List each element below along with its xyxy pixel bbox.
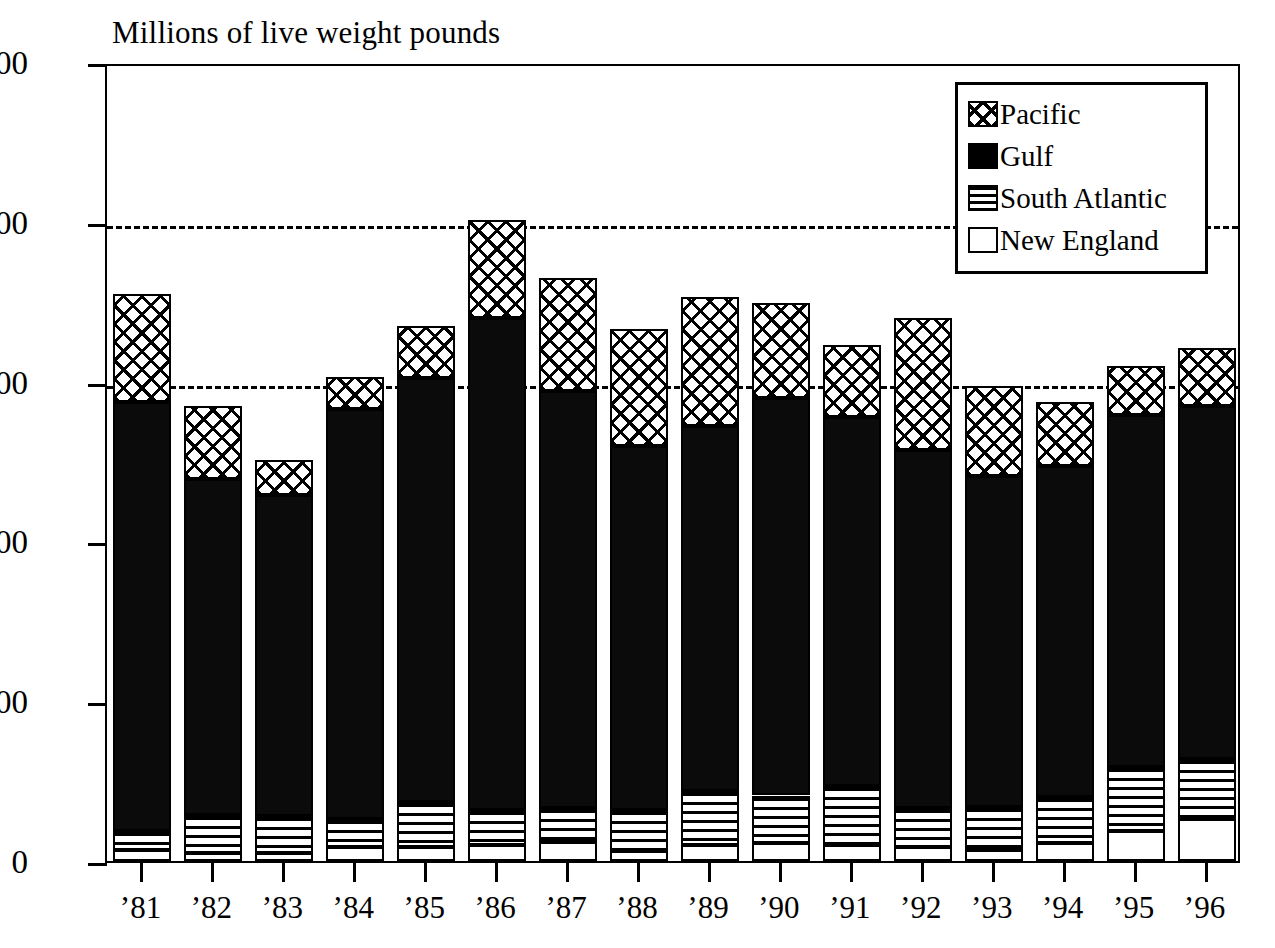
x-axis-tick-mark (211, 863, 214, 882)
bar-segment-pacific (539, 278, 597, 391)
bar-segment-gulf (894, 450, 952, 808)
x-axis-tick-label: ’84 (333, 892, 374, 923)
bar-82[interactable] (184, 406, 242, 861)
bar-89[interactable] (681, 297, 739, 861)
bar-segment-gulf (468, 318, 526, 810)
bar-segment-gulf (184, 479, 242, 815)
bar-segment-gulf (255, 495, 313, 816)
bar-segment-pacific (397, 326, 455, 379)
y-axis-tick-label: 0 (12, 846, 29, 879)
bar-segment-new-england (752, 843, 810, 861)
bar-87[interactable] (539, 278, 597, 861)
bar-segment-pacific (894, 318, 952, 451)
x-axis-tick-mark (850, 863, 853, 882)
bar-segment-pacific (1178, 348, 1236, 406)
bar-segment-pacific (1107, 366, 1165, 416)
bar-segment-south-atlantic (681, 791, 739, 845)
x-axis-tick-label: ’85 (404, 892, 445, 923)
legend-item-pacific[interactable]: Pacific (968, 93, 1195, 135)
bar-segment-new-england (1178, 819, 1236, 861)
y-axis-tick-label: 400 (0, 207, 28, 240)
bar-95[interactable] (1107, 366, 1165, 861)
x-axis-tick-label: ’93 (971, 892, 1012, 923)
bar-segment-gulf (1107, 415, 1165, 767)
bar-segment-south-atlantic (752, 796, 810, 844)
y-axis-tick-mark (88, 863, 107, 866)
bar-segment-gulf (326, 409, 384, 820)
x-axis-tick-label: ’92 (900, 892, 941, 923)
bar-segment-pacific (823, 345, 881, 417)
bar-segment-gulf (397, 378, 455, 801)
y-axis-tick-label: 100 (0, 686, 28, 719)
bar-segment-pacific (965, 386, 1023, 475)
bar-84[interactable] (326, 377, 384, 861)
bar-segment-gulf (823, 417, 881, 786)
x-axis-tick-mark (1134, 863, 1137, 882)
chart-title: Millions of live weight pounds (112, 14, 500, 52)
bar-segment-south-atlantic (326, 819, 384, 846)
x-axis-tick-label: ’96 (1184, 892, 1225, 923)
bar-85[interactable] (397, 326, 455, 861)
bar-segment-south-atlantic (255, 816, 313, 853)
x-axis-tick-label: ’81 (120, 892, 161, 923)
x-axis-tick-label: ’94 (1042, 892, 1083, 923)
x-axis-tick-mark (1063, 863, 1066, 882)
bar-segment-new-england (610, 851, 668, 861)
bar-segment-new-england (823, 845, 881, 861)
bar-segment-pacific (326, 377, 384, 409)
bar-86[interactable] (468, 220, 526, 861)
bar-segment-gulf (752, 398, 810, 796)
x-axis-tick-label: ’95 (1113, 892, 1154, 923)
bar-94[interactable] (1036, 402, 1094, 861)
bar-segment-new-england (397, 847, 455, 861)
x-axis-tick-mark (1205, 863, 1208, 882)
x-axis-tick-mark (566, 863, 569, 882)
x-axis-tick-label: ’91 (829, 892, 870, 923)
x-axis-tick-mark (495, 863, 498, 882)
bar-90[interactable] (752, 303, 810, 861)
legend-item-label: South Atlantic (1000, 184, 1167, 213)
white-swatch (968, 227, 998, 253)
x-axis-tick-label: ’90 (758, 892, 799, 923)
solid-black-swatch (968, 143, 998, 169)
bar-88[interactable] (610, 329, 668, 861)
x-axis-tick-label: ’87 (545, 892, 586, 923)
bar-segment-new-england (113, 850, 171, 861)
bar-segment-new-england (1107, 831, 1165, 861)
legend-item-gulf[interactable]: Gulf (968, 135, 1195, 177)
x-axis-tick-label: ’89 (687, 892, 728, 923)
stacked-bar-chart: Millions of live weight pounds 010020030… (0, 0, 1275, 948)
x-axis-tick-mark (637, 863, 640, 882)
legend-item-south-atlantic[interactable]: South Atlantic (968, 177, 1195, 219)
bar-91[interactable] (823, 345, 881, 861)
bar-segment-pacific (1036, 402, 1094, 466)
legend-item-new-england[interactable]: New England (968, 219, 1195, 261)
y-axis-tick-label: 300 (0, 367, 28, 400)
bar-segment-pacific (752, 303, 810, 397)
bar-96[interactable] (1178, 348, 1236, 861)
bar-segment-south-atlantic (539, 808, 597, 842)
bar-83[interactable] (255, 460, 313, 861)
x-axis-tick-mark (282, 863, 285, 882)
chart-legend: PacificGulfSouth AtlanticNew England (955, 82, 1208, 274)
horizontal-lines-swatch (968, 185, 998, 211)
bar-segment-gulf (539, 391, 597, 808)
bar-segment-pacific (468, 220, 526, 317)
bar-segment-new-england (1036, 843, 1094, 861)
bar-segment-gulf (1178, 406, 1236, 759)
bar-segment-south-atlantic (184, 815, 242, 853)
bar-segment-new-england (184, 853, 242, 861)
y-axis-tick-label: 500 (0, 47, 28, 80)
bar-segment-gulf (113, 402, 171, 830)
bar-81[interactable] (113, 294, 171, 861)
bar-segment-pacific (113, 294, 171, 403)
bar-92[interactable] (894, 318, 952, 861)
bar-segment-south-atlantic (1036, 797, 1094, 843)
x-axis-tick-mark (921, 863, 924, 882)
bar-segment-south-atlantic (113, 831, 171, 850)
legend-item-label: Pacific (1000, 100, 1081, 129)
bar-93[interactable] (965, 386, 1023, 861)
legend-item-label: New England (1000, 226, 1159, 255)
x-axis-tick-mark (992, 863, 995, 882)
x-axis-tick-label: ’88 (616, 892, 657, 923)
